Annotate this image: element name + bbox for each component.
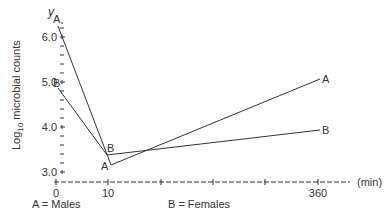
series-a-label-start: A	[53, 13, 61, 25]
series-a-label-mid: A	[101, 160, 109, 172]
x-axis-unit: (min)	[357, 176, 382, 188]
series-b-label-start: B	[53, 77, 60, 89]
series-b-label-mid: B	[107, 142, 114, 154]
series-b-line	[58, 88, 320, 155]
y-axis	[60, 22, 65, 174]
legend-females: B = Females	[168, 198, 231, 210]
legend-males: A = Males	[32, 198, 81, 210]
x-tick-10: 10	[102, 187, 114, 199]
x-axis	[54, 179, 350, 185]
y-tick-4: 4.0	[42, 121, 57, 133]
series-b-label-end: B	[322, 124, 329, 136]
x-tick-360: 360	[309, 187, 327, 199]
chart: 6.0 5.0 4.0 3.0 y Log10 microbial counts…	[0, 0, 387, 219]
y-axis-label: Log10 microbial counts	[10, 40, 25, 150]
y-tick-6: 6.0	[42, 31, 57, 43]
series-a-line	[58, 26, 320, 165]
series-a-label-end: A	[322, 73, 330, 85]
y-tick-3: 3.0	[42, 166, 57, 178]
